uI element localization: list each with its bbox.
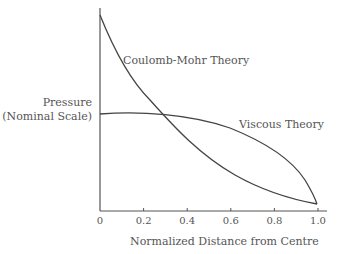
viscous-annotation: Viscous Theory (239, 118, 324, 131)
coulomb-mohr-curve (100, 15, 317, 204)
x-tick-label: 1.0 (310, 215, 326, 226)
x-tick-label: 0.4 (179, 215, 195, 226)
x-axis-label: Normalized Distance from Centre (130, 235, 319, 248)
x-tick-label: 0.2 (136, 215, 152, 226)
coulomb-mohr-annotation: Coulomb-Mohr Theory (123, 54, 249, 67)
y-axis-label-line2: (Nominal Scale) (2, 110, 92, 123)
x-tick-label: 0.8 (266, 215, 282, 226)
x-tick-label: 0 (97, 215, 103, 226)
x-tick-label: 0.6 (223, 215, 239, 226)
y-axis-label-line1: Pressure (43, 96, 92, 109)
